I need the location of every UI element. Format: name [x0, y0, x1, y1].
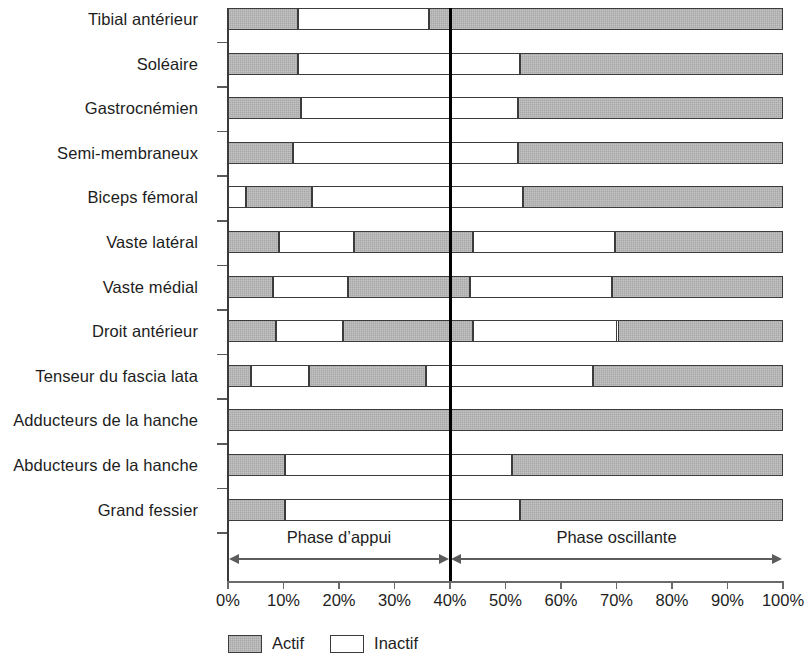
bar-segment-active [229, 410, 783, 430]
bar-abducteurs-de-la-hanche [228, 454, 783, 476]
x-tick-label: 10% [267, 591, 300, 610]
bar-segment-active [229, 232, 279, 252]
x-tick-label: 0% [216, 591, 240, 610]
chart-legend: ActifInactif [228, 634, 418, 653]
bar-segment-active [229, 98, 301, 118]
x-axis-tick [394, 581, 395, 589]
bar-segment-inactive [312, 187, 523, 207]
bar-vaste-lateral [228, 231, 783, 253]
bar-segment-inactive [273, 277, 348, 297]
arrow-left-icon [229, 554, 239, 564]
y-label-vaste-medial: Vaste médial [0, 279, 212, 296]
bar-segment-active [429, 9, 783, 29]
x-tick-label: 90% [711, 591, 744, 610]
y-label-vaste-lateral: Vaste latéral [0, 234, 212, 251]
bar-segment-active [229, 9, 298, 29]
arrow-right-icon [772, 554, 782, 564]
bar-semi-membraneux [228, 142, 783, 164]
y-label-tibial-anterieur: Tibial antérieur [0, 11, 212, 28]
phase-label-stance: Phase d’appui [228, 528, 450, 547]
bar-segment-active [229, 143, 293, 163]
x-tick-label: 70% [600, 591, 633, 610]
bar-segment-inactive [470, 277, 612, 297]
y-label-biceps-femoral: Biceps fémoral [0, 189, 212, 206]
y-label-droit-anterieur: Droit antérieur [0, 323, 212, 340]
x-axis-tick [671, 581, 672, 589]
bar-vaste-medial [228, 276, 783, 298]
bar-segment-active [523, 187, 783, 207]
y-axis-tick [217, 354, 227, 356]
bar-segment-active [520, 500, 783, 520]
arrow-right-icon [439, 554, 449, 564]
x-axis-tick [616, 581, 617, 589]
x-axis-tick [227, 581, 228, 589]
bar-segment-active [246, 187, 313, 207]
legend-item-active: Actif [228, 634, 304, 653]
plot-area [228, 8, 783, 581]
bar-segment-active [354, 232, 473, 252]
y-axis-tick [217, 309, 227, 311]
x-axis-tick [338, 581, 339, 589]
x-tick-label: 50% [489, 591, 522, 610]
stance-swing-divider-line [449, 8, 452, 581]
bar-segment-active [229, 321, 276, 341]
y-label-tenseur-du-fascia-lata: Tenseur du fascia lata [0, 368, 212, 385]
x-tick-label: 20% [322, 591, 355, 610]
phase-arrow-swing [460, 558, 773, 560]
y-axis-tick [217, 398, 227, 400]
bar-segment-active [229, 277, 273, 297]
bar-segment-inactive [298, 54, 520, 74]
y-axis-category-labels: Tibial antérieurSoléaireGastrocnémienSem… [0, 0, 212, 590]
x-tick-label: 80% [655, 591, 688, 610]
legend-swatch-active [228, 635, 262, 653]
bar-segment-active [520, 54, 783, 74]
y-axis-tick [217, 220, 227, 222]
y-axis-tick [217, 265, 227, 267]
phase-annotation-band: Phase d’appuiPhase oscillante [228, 528, 783, 574]
bar-segment-active [615, 232, 783, 252]
x-tick-label: 60% [544, 591, 577, 610]
y-label-grand-fessier: Grand fessier [0, 502, 212, 519]
muscle-activity-gait-chart: Tibial antérieurSoléaireGastrocnémienSem… [0, 0, 810, 663]
phase-label-swing: Phase oscillante [450, 528, 783, 547]
y-label-abducteurs-de-la-hanche: Abducteurs de la hanche [0, 457, 212, 474]
bar-adducteurs-de-la-hanche [228, 409, 783, 431]
x-axis-tick [560, 581, 561, 589]
x-axis-tick [727, 581, 728, 589]
y-label-gastrocnemien: Gastrocnémien [0, 100, 212, 117]
bar-segment-active [343, 321, 473, 341]
bar-segment-inactive [293, 143, 518, 163]
x-axis-tick [449, 581, 450, 589]
bar-segment-active [618, 321, 784, 341]
y-axis-tick [217, 86, 227, 88]
legend-label-inactive: Inactif [374, 634, 418, 653]
x-axis-tick [283, 581, 284, 589]
y-axis-tick [217, 443, 227, 445]
bar-segment-inactive [251, 366, 309, 386]
y-axis-tick [217, 131, 227, 133]
bar-segment-inactive [298, 9, 428, 29]
bar-segment-inactive [285, 500, 521, 520]
bar-segment-inactive [276, 321, 343, 341]
y-label-soleaire: Soléaire [0, 56, 212, 73]
bar-segment-active [518, 98, 783, 118]
arrow-left-icon [451, 554, 461, 564]
y-label-semi-membraneux: Semi-membraneux [0, 145, 212, 162]
bar-segment-active [229, 455, 285, 475]
y-axis-tick [217, 42, 227, 44]
y-axis-tick [217, 532, 227, 534]
bar-segment-active [612, 277, 783, 297]
bar-segment-inactive [285, 455, 513, 475]
bar-droit-anterieur [228, 320, 783, 342]
legend-swatch-inactive [330, 635, 364, 653]
bar-tenseur-du-fascia-lata [228, 365, 783, 387]
bar-segment-inactive [473, 232, 615, 252]
legend-item-inactive: Inactif [330, 634, 418, 653]
bar-segment-active [348, 277, 470, 297]
bar-segment-active [309, 366, 426, 386]
x-tick-label: 30% [378, 591, 411, 610]
bar-grand-fessier [228, 499, 783, 521]
bar-segment-active [229, 366, 251, 386]
bar-segment-active [593, 366, 783, 386]
bar-tibial-anterieur [228, 8, 783, 30]
